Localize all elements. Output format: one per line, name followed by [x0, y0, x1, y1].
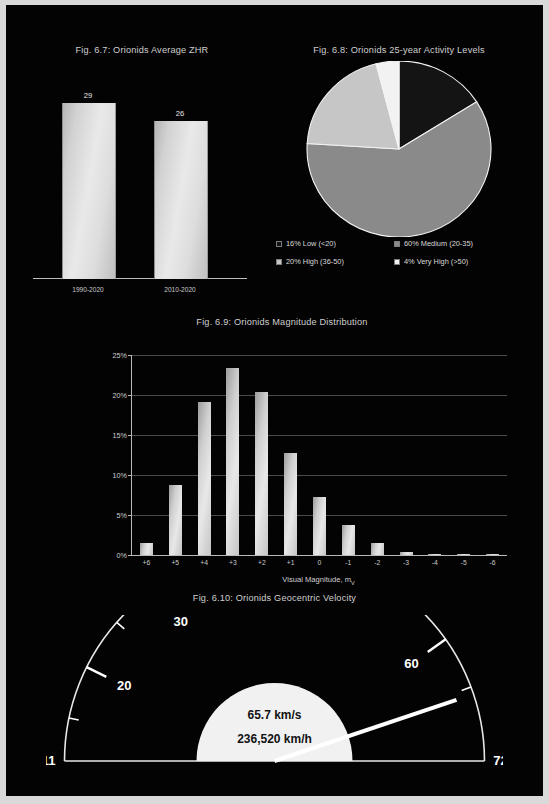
- histogram-bar: [284, 453, 297, 555]
- histogram-x-tick-label: +4: [200, 559, 208, 566]
- gauge-tick: [69, 718, 79, 720]
- histogram-bar: [198, 402, 211, 555]
- gauge-tick-label: 50: [338, 615, 352, 616]
- histogram-bar: [342, 525, 355, 555]
- histogram-x-tick-label: -5: [461, 559, 467, 566]
- histogram-bar: [313, 497, 326, 555]
- histogram-bar: [457, 554, 470, 555]
- histogram-bar: [140, 543, 153, 555]
- histogram-bar: [400, 552, 413, 555]
- bar-column: 262010-2020: [154, 79, 206, 279]
- figure-6-7-average-zhr: Fig. 6.7: Orionids Average ZHR 291990-20…: [22, 33, 262, 303]
- bar-value-label: 26: [154, 109, 206, 118]
- figure-6-10-title: Fig. 6.10: Orionids Geocentric Velocity: [22, 593, 527, 603]
- pie-legend: 16% Low (<20)60% Medium (20-35)20% High …: [276, 239, 522, 266]
- histogram-y-tick: [128, 435, 132, 436]
- legend-item: 20% High (36-50): [276, 257, 394, 266]
- histogram-axis-line: [132, 555, 507, 556]
- histogram-gridline: [132, 435, 507, 436]
- histogram-bar: [428, 554, 441, 555]
- histogram-y-tick-label: 25%: [113, 351, 127, 360]
- histogram-x-axis-title-text: Visual Magnitude, m: [282, 575, 351, 584]
- bar: [62, 103, 116, 279]
- histogram-bar: [486, 554, 499, 555]
- gauge-value-kmh: 236,520 km/h: [237, 732, 312, 746]
- gauge-min-label: 11: [46, 753, 55, 768]
- figure-6-9-magnitude-distribution: Fig. 6.9: Orionids Magnitude Distributio…: [22, 317, 527, 577]
- pie-chart: [301, 61, 497, 237]
- histogram-x-tick-label: -2: [374, 559, 380, 566]
- legend-label: 20% High (36-50): [286, 257, 344, 266]
- histogram-x-tick-label: +2: [258, 559, 266, 566]
- histogram-x-tick-label: +1: [287, 559, 295, 566]
- histogram-x-axis-title: Visual Magnitude, mV: [131, 575, 506, 586]
- histogram-x-tick-label: -3: [403, 559, 409, 566]
- legend-label: 60% Medium (20-35): [404, 239, 473, 248]
- histogram-y-tick-label: 0%: [117, 551, 127, 560]
- gauge-tick-label: 30: [173, 615, 187, 629]
- histogram-y-tick: [128, 395, 132, 396]
- gauge-tick: [462, 687, 471, 691]
- legend-swatch-icon: [394, 241, 400, 247]
- histogram-x-tick-label: +6: [143, 559, 151, 566]
- legend-swatch-icon: [394, 259, 400, 265]
- histogram-plot-area: 0%5%10%15%20%25%+6+5+4+3+2+10-1-2-3-4-5-…: [131, 355, 507, 555]
- histogram-x-tick-label: -6: [490, 559, 496, 566]
- pie-chart-svg: [301, 61, 497, 237]
- figure-6-9-title: Fig. 6.9: Orionids Magnitude Distributio…: [82, 317, 482, 327]
- legend-item: 4% Very High (>50): [394, 257, 522, 266]
- gauge-tick-label: 60: [404, 656, 418, 671]
- histogram-x-axis-title-subscript: V: [351, 580, 355, 586]
- histogram-x-tick-label: -1: [345, 559, 351, 566]
- bar-value-label: 29: [62, 91, 114, 100]
- legend-item: 60% Medium (20-35): [394, 239, 522, 248]
- velocity-gauge: 2030405060117265.7 km/s236,520 km/h: [46, 615, 503, 777]
- figure-6-10-geocentric-velocity: Fig. 6.10: Orionids Geocentric Velocity …: [22, 593, 527, 789]
- legend-label: 16% Low (<20): [286, 239, 336, 248]
- histogram-y-tick-label: 10%: [113, 471, 127, 480]
- histogram-gridline: [132, 355, 507, 356]
- histogram-bar: [226, 368, 239, 555]
- histogram-y-tick: [128, 475, 132, 476]
- bar-category-label: 1990-2020: [62, 286, 114, 293]
- gauge-tick: [117, 622, 125, 629]
- histogram-bar: [255, 392, 268, 555]
- histogram-x-tick-label: 0: [318, 559, 322, 566]
- histogram-bar: [371, 543, 384, 555]
- bar: [154, 121, 208, 279]
- gauge-value-kms: 65.7 km/s: [247, 708, 301, 722]
- histogram-bar: [169, 485, 182, 555]
- histogram-gridline: [132, 475, 507, 476]
- figure-page: Fig. 6.7: Orionids Average ZHR 291990-20…: [6, 5, 543, 796]
- gauge-tick: [87, 667, 107, 677]
- figure-6-7-title: Fig. 6.7: Orionids Average ZHR: [22, 45, 262, 55]
- histogram-y-tick: [128, 555, 132, 556]
- legend-swatch-icon: [276, 259, 282, 265]
- legend-label: 4% Very High (>50): [404, 257, 468, 266]
- bar-category-label: 2010-2020: [154, 286, 206, 293]
- histogram-x-tick-label: -4: [432, 559, 438, 566]
- gauge-center-dome: [197, 683, 353, 761]
- gauge-max-label: 72: [493, 753, 503, 768]
- legend-item: 16% Low (<20): [276, 239, 394, 248]
- histogram-y-tick-label: 20%: [113, 391, 127, 400]
- histogram-x-tick-label: +5: [171, 559, 179, 566]
- histogram-y-tick: [128, 515, 132, 516]
- velocity-gauge-svg: 2030405060117265.7 km/s236,520 km/h: [46, 615, 503, 777]
- bar-column: 291990-2020: [62, 79, 114, 279]
- histogram-y-tick-label: 15%: [113, 431, 127, 440]
- histogram-gridline: [132, 395, 507, 396]
- gauge-tick: [428, 639, 446, 652]
- histogram-y-tick-label: 5%: [117, 511, 127, 520]
- legend-swatch-icon: [276, 241, 282, 247]
- gauge-tick-label: 20: [117, 678, 131, 693]
- histogram-y-tick: [128, 355, 132, 356]
- figure-6-8-title: Fig. 6.8: Orionids 25-year Activity Leve…: [268, 45, 530, 55]
- histogram-x-tick-label: +3: [229, 559, 237, 566]
- figure-6-8-activity-levels: Fig. 6.8: Orionids 25-year Activity Leve…: [268, 33, 530, 303]
